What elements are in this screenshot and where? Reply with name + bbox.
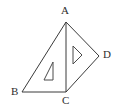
edge-ab xyxy=(22,22,66,92)
vertex-label-b: B xyxy=(11,86,18,97)
left-inner-triangle-icon xyxy=(44,62,53,80)
vertex-label-c: C xyxy=(62,95,69,106)
right-inner-triangle-icon xyxy=(73,46,82,64)
edge-ad xyxy=(66,22,99,56)
geometry-figure: A B C D xyxy=(0,0,123,110)
vertex-label-d: D xyxy=(103,49,111,60)
edge-cd xyxy=(66,56,99,92)
vertex-label-a: A xyxy=(61,5,69,16)
